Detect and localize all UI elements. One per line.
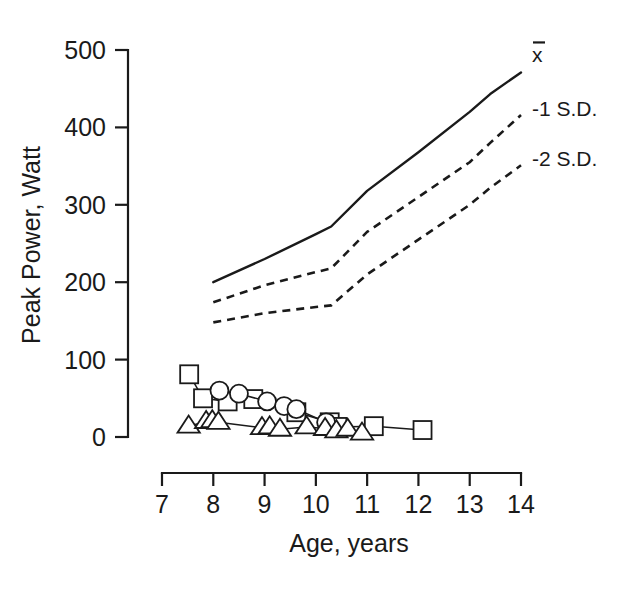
data-point-circle	[258, 392, 276, 410]
y-tick-label-400: 400	[64, 113, 106, 141]
data-point-circle	[287, 400, 305, 418]
x-tick-label-10: 10	[302, 490, 330, 518]
y-tick-label-0: 0	[92, 423, 106, 451]
data-point-circle	[210, 382, 228, 400]
data-point-square	[180, 365, 198, 383]
y-tick-label-300: 300	[64, 191, 106, 219]
curve-label-minus-1-sd: -1 S.D.	[532, 97, 597, 120]
y-tick-label-500: 500	[64, 36, 106, 64]
x-axis-ticks: 7891011121314	[155, 473, 535, 518]
peak-power-vs-age-chart: 0100200300400500 7891011121314 x-1 S.D.-…	[0, 0, 624, 589]
x-tick-label-9: 9	[258, 490, 272, 518]
curve-mean	[213, 72, 521, 282]
curve-minus-1-sd	[213, 115, 521, 302]
curve-labels-group: x-1 S.D.-2 S.D.	[532, 42, 597, 170]
x-tick-label-12: 12	[405, 490, 433, 518]
y-axis: 0100200300400500	[64, 36, 128, 451]
figure-container: 0100200300400500 7891011121314 x-1 S.D.-…	[0, 0, 624, 589]
reference-curves-group	[213, 72, 521, 322]
data-series-group	[178, 365, 432, 439]
data-point-square	[414, 421, 432, 439]
series-patients-triangles	[178, 410, 374, 439]
y-tick-label-200: 200	[64, 268, 106, 296]
curve-label-minus-2-sd: -2 S.D.	[532, 147, 597, 170]
x-axis-title: Age, years	[289, 529, 409, 557]
x-tick-label-7: 7	[155, 490, 169, 518]
y-axis-ticks: 0100200300400500	[64, 36, 128, 451]
x-tick-label-11: 11	[354, 490, 380, 518]
x-tick-label-8: 8	[206, 490, 220, 518]
curve-label-mean: x	[532, 43, 543, 66]
curve-minus-2-sd	[213, 165, 521, 322]
x-axis: 7891011121314	[155, 473, 535, 518]
x-tick-label-14: 14	[507, 490, 535, 518]
data-point-circle	[230, 385, 248, 403]
y-tick-label-100: 100	[64, 346, 106, 374]
y-axis-title: Peak Power, Watt	[17, 146, 45, 344]
x-tick-label-13: 13	[456, 490, 484, 518]
data-point-square	[194, 389, 212, 407]
